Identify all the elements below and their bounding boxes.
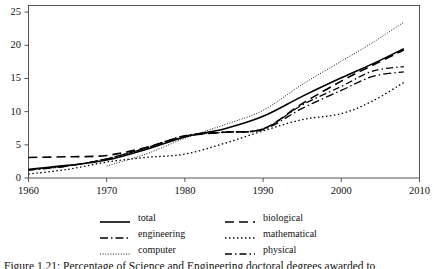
legend-swatch xyxy=(100,229,130,239)
y-tick-label: 15 xyxy=(0,72,21,83)
series-line-mathematical xyxy=(29,82,404,174)
y-axis-ticks xyxy=(25,12,29,178)
x-tick-label: 1980 xyxy=(163,185,207,196)
legend-row: totalbiological xyxy=(100,210,350,226)
legend-swatch xyxy=(225,213,255,223)
plot-border xyxy=(29,6,420,179)
x-tick-label: 2000 xyxy=(319,185,363,196)
legend-label-mathematical: mathematical xyxy=(263,229,317,239)
legend-swatch xyxy=(100,213,130,223)
series-line-total xyxy=(29,49,404,170)
plot-frame xyxy=(29,6,420,179)
x-axis-ticks xyxy=(29,178,420,182)
figure-caption: Figure 1.21: Percentage of Science and E… xyxy=(4,260,432,269)
legend-swatch xyxy=(100,245,130,255)
legend-item-physical[interactable]: physical xyxy=(225,242,350,258)
series-line-physical xyxy=(29,67,404,170)
y-tick-label: 10 xyxy=(0,106,21,117)
series-line-engineering xyxy=(29,72,404,170)
chart-legend: totalbiologicalengineeringmathematicalco… xyxy=(100,210,350,258)
legend-label-total: total xyxy=(138,213,156,223)
figure-panel: 0510152025 196019701980199020002010 tota… xyxy=(0,0,434,269)
y-tick-label: 0 xyxy=(0,172,21,183)
x-tick-label: 1960 xyxy=(7,185,51,196)
legend-label-physical: physical xyxy=(263,245,296,255)
legend-row: computerphysical xyxy=(100,242,350,258)
x-tick-label: 2010 xyxy=(398,185,434,196)
legend-label-computer: computer xyxy=(138,245,176,255)
legend-item-engineering[interactable]: engineering xyxy=(100,226,225,242)
legend-key-physical xyxy=(225,249,255,259)
y-tick-label: 5 xyxy=(0,139,21,150)
y-tick-label: 20 xyxy=(0,39,21,50)
series-line-biological xyxy=(29,50,404,157)
legend-item-total[interactable]: total xyxy=(100,210,225,226)
data-series-group xyxy=(29,22,404,174)
x-tick-label: 1970 xyxy=(85,185,129,196)
legend-key-computer xyxy=(100,249,130,259)
x-tick-label: 1990 xyxy=(241,185,285,196)
legend-item-computer[interactable]: computer xyxy=(100,242,225,258)
legend-item-biological[interactable]: biological xyxy=(225,210,350,226)
series-line-computer xyxy=(107,22,404,166)
y-tick-label: 25 xyxy=(0,6,21,17)
legend-row: engineeringmathematical xyxy=(100,226,350,242)
legend-label-biological: biological xyxy=(263,213,303,223)
legend-swatch xyxy=(225,229,255,239)
legend-label-engineering: engineering xyxy=(138,229,185,239)
legend-swatch xyxy=(225,245,255,255)
legend-item-mathematical[interactable]: mathematical xyxy=(225,226,350,242)
